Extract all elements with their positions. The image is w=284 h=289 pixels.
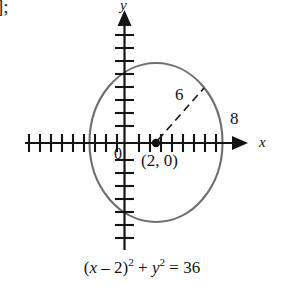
equation-minus-two: – 2 [97,258,123,277]
radius-label: 6 [175,86,184,103]
center-point-label: (2, 0) [141,152,178,169]
y-axis-label: y [120,0,127,13]
x-axis-label: x [259,135,266,150]
equation-caption: (x – 2)2 + y2 = 36 [0,258,284,278]
graph-canvas [0,0,284,289]
circle-graph-figure: ]; [0,0,284,289]
equation-plus: + [134,258,152,277]
equation-equals-value: = 36 [165,258,200,277]
equation-x-var: x [90,258,98,277]
x-intercept-label: 8 [230,110,239,127]
x-axis-arrowhead [232,136,248,150]
center-point-dot [152,139,160,147]
origin-label: 0 [114,146,122,162]
